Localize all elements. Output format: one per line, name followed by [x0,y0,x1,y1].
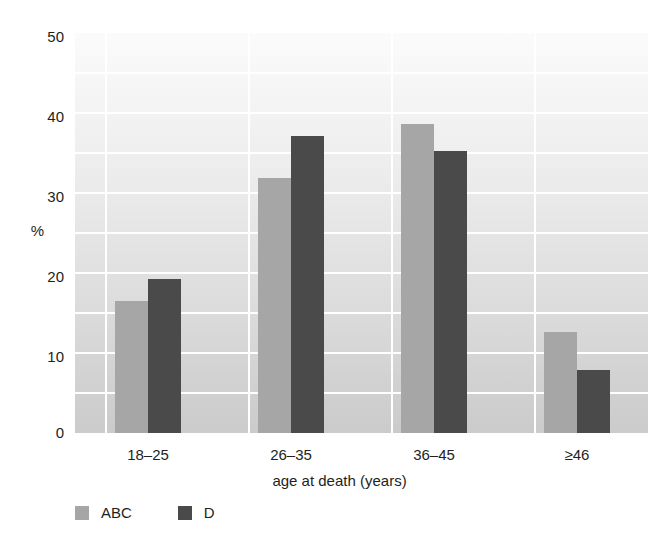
x-axis-title: age at death (years) [0,472,665,490]
y-tick-label-50: 50 [20,29,64,45]
x-tick-label-46-plus: ≥46 [537,446,617,464]
bar-d-18-25 [148,279,181,433]
legend: ABC D [75,505,261,521]
y-axis-title: % [14,222,44,240]
legend-entry-d: D [178,505,215,521]
grouped-bar-chart: % 50 40 30 20 10 0 18–25 [0,0,665,538]
legend-swatch-d [178,506,192,520]
y-tick-label-40: 40 [20,109,64,125]
gridline-vertical-4 [534,33,536,433]
bar-abc-46-plus [544,332,577,433]
bar-d-26-35 [291,136,324,433]
bar-d-46-plus [577,370,610,433]
bar-abc-18-25 [115,301,148,433]
plot-area [75,33,648,433]
gridline-20 [75,272,648,274]
gridline-vertical-1 [105,33,107,433]
x-tick-label-26-35: 26–35 [251,446,331,464]
gridline-45 [75,72,648,74]
y-tick-label-10: 10 [20,349,64,365]
x-tick-label-18-25: 18–25 [108,446,188,464]
bar-d-36-45 [434,151,467,433]
gridline-40 [75,112,648,114]
gridline-35 [75,152,648,154]
legend-label-abc: ABC [101,505,132,521]
y-tick-label-20: 20 [20,269,64,285]
bar-abc-36-45 [401,124,434,433]
y-tick-label-0: 0 [20,425,64,441]
gridline-30 [75,192,648,194]
legend-label-d: D [204,505,215,521]
gridline-25 [75,232,648,234]
x-tick-label-36-45: 36–45 [394,446,474,464]
y-tick-label-30: 30 [20,189,64,205]
gridline-vertical-2 [248,33,250,433]
legend-swatch-abc [75,506,89,520]
bar-abc-26-35 [258,178,291,433]
legend-entry-abc: ABC [75,505,132,521]
gridline-vertical-3 [391,33,393,433]
